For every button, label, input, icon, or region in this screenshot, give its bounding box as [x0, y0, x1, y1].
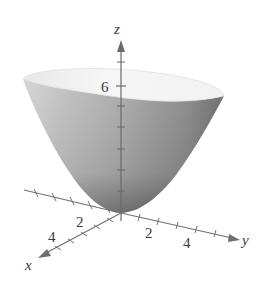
z-tick-label-6: 6	[101, 79, 109, 95]
z-axis-label: z	[113, 21, 120, 37]
z-axis-arrow-icon	[117, 40, 125, 52]
paraboloid-figure: z 6 2 4 x 2 4 y	[0, 0, 256, 290]
y-axis	[121, 213, 240, 242]
y-tick-label-2: 2	[145, 225, 153, 241]
x-axis-arrow-icon	[38, 249, 51, 258]
y-axis-label: y	[240, 232, 249, 248]
x-axis-label: x	[24, 257, 32, 273]
x-tick-label-4: 4	[48, 229, 56, 245]
y-axis-arrow-icon	[228, 234, 240, 242]
x-tick-label-2: 2	[76, 214, 84, 230]
plot-canvas: z 6 2 4 x 2 4 y	[0, 0, 256, 290]
y-tick-label-4: 4	[183, 235, 191, 251]
